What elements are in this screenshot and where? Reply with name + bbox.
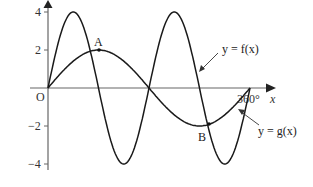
g-curve-label: y = g(x) bbox=[258, 124, 297, 138]
y-tick-label-minus-4: −4 bbox=[28, 157, 41, 171]
y-tick-label-4: 4 bbox=[35, 5, 41, 19]
y-axis-arrow-icon bbox=[44, 0, 53, 8]
origin-label: O bbox=[36, 90, 45, 104]
f-leader-line bbox=[201, 53, 218, 70]
y-tick-label-minus-2: −2 bbox=[28, 119, 41, 133]
point-b bbox=[207, 122, 211, 126]
point-a-label: A bbox=[94, 35, 103, 49]
point-b-label: B bbox=[198, 130, 206, 144]
x-axis-label: x bbox=[269, 92, 276, 106]
f-leader-arrow-icon bbox=[199, 65, 205, 72]
f-curve-label: y = f(x) bbox=[222, 42, 259, 56]
y-tick-label-2: 2 bbox=[35, 43, 41, 57]
trig-graph: 4 2 −2 −4 O x 360° A B y = f(x) y = g(x) bbox=[0, 0, 313, 187]
